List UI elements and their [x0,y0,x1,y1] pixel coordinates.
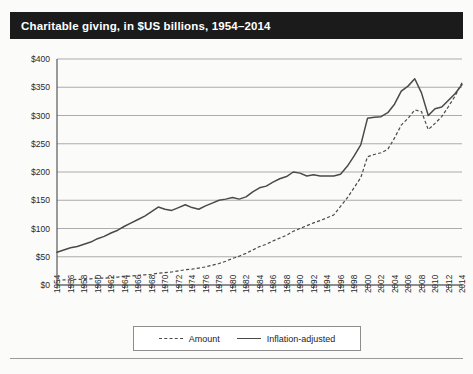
y-axis-tick-label: $150 [31,195,50,205]
y-axis-tick-label: $50 [36,252,51,262]
x-axis-tick-label: 1966 [134,274,143,293]
footer-divider [10,358,463,359]
y-axis-tick-label: $300 [31,111,50,121]
legend-label-amount: Amount [189,334,220,344]
line-chart: $0$50$100$150$200$250$300$350$400 195419… [0,44,473,344]
x-axis-tick-label: 2000 [364,274,373,293]
y-axis-tick-label: $350 [31,82,50,92]
chart-canvas: $0$50$100$150$200$250$300$350$400 195419… [0,44,473,344]
x-axis-tick-label: 1982 [242,274,251,293]
x-axis-tick-label: 1976 [202,274,211,293]
x-axis-tick-label: 2002 [377,274,386,293]
x-axis-tick-label: 1996 [337,274,346,293]
legend-swatch-solid-icon [237,338,261,339]
y-axis-tick-label: $250 [31,139,50,149]
x-axis-tick-label: 1978 [215,274,224,293]
x-axis-tick-label: 1992 [310,274,319,293]
x-axis-tick-label: 2012 [445,274,454,293]
x-axis-tick-label: 2006 [404,274,413,293]
x-axis-tick-label: 1980 [229,274,238,293]
y-axis-tick-label: $100 [31,224,50,234]
x-axis-tick-label: 2004 [391,274,400,293]
x-axis-tick-label: 2008 [418,274,427,293]
x-axis-tick-label: 1970 [161,274,170,293]
x-axis-tick-label: 1954 [53,274,62,293]
x-axis-tick-label: 1960 [94,274,103,293]
y-axis-tick-label: $200 [31,167,50,177]
x-axis-labels-group: 1954195619581960196219641966196819701972… [53,274,467,293]
gridlines-group [57,59,462,285]
x-axis-tick-label: 1994 [323,274,332,293]
x-axis-tick-label: 1974 [188,274,197,293]
y-axis-tick-label: $400 [31,54,50,64]
x-axis-tick-label: 1988 [283,274,292,293]
x-axis-tick-label: 2010 [431,274,440,293]
x-axis-tick-label: 1956 [67,274,76,293]
series-line-amount [57,83,462,281]
legend-swatch-dashed-icon [159,338,183,339]
y-axis-labels-group: $0$50$100$150$200$250$300$350$400 [31,54,50,290]
legend-item-amount: Amount [159,334,220,344]
chart-page: Charitable giving, in $US billions, 1954… [0,0,473,374]
x-axis-tick-label: 1972 [175,274,184,293]
chart-title-bar: Charitable giving, in $US billions, 1954… [10,12,463,39]
x-axis-tick-label: 1998 [350,274,359,293]
legend-item-inflation-adjusted: Inflation-adjusted [237,334,336,344]
x-axis-tick-label: 1990 [296,274,305,293]
x-axis-tick-label: 1984 [256,274,265,293]
x-axis-tick-label: 1958 [80,274,89,293]
x-axis-tick-label: 1968 [148,274,157,293]
chart-legend: Amount Inflation-adjusted [133,326,361,351]
x-axis-tick-label: 2014 [458,274,467,293]
series-line-inflation-adjusted [57,79,462,252]
page-title: Charitable giving, in $US billions, 1954… [10,20,271,32]
y-axis-tick-label: $0 [40,280,50,290]
legend-label-inflation-adjusted: Inflation-adjusted [267,334,336,344]
x-axis-tick-label: 1986 [269,274,278,293]
